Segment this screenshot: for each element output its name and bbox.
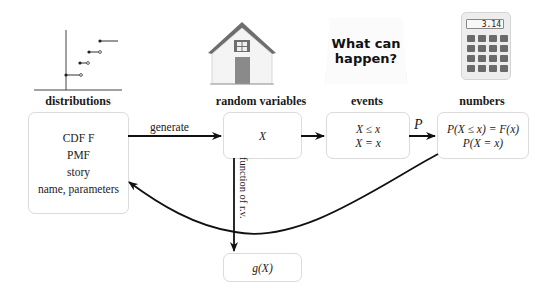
probability-label: P xyxy=(414,117,423,133)
function-label: function of r.v. xyxy=(238,157,249,219)
back-to-distribution-curve xyxy=(129,154,438,234)
generate-label: generate xyxy=(150,121,189,133)
arrows-layer xyxy=(0,0,555,293)
